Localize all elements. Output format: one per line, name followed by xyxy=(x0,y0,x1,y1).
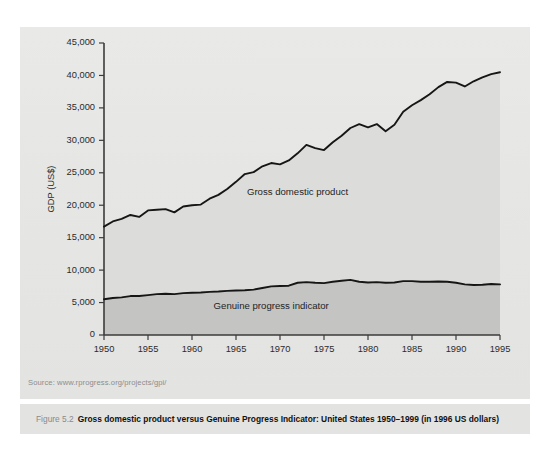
svg-text:1985: 1985 xyxy=(402,344,423,354)
svg-text:10,000: 10,000 xyxy=(67,265,95,275)
svg-text:1980: 1980 xyxy=(358,344,379,354)
svg-text:0: 0 xyxy=(90,329,95,339)
svg-text:35,000: 35,000 xyxy=(67,102,95,112)
svg-text:1995: 1995 xyxy=(490,344,511,354)
figure-container: 05,00010,00015,00020,00025,00030,00035,0… xyxy=(0,0,549,451)
figure-number: Figure 5.2 xyxy=(36,414,74,424)
svg-text:45,000: 45,000 xyxy=(67,37,95,47)
svg-text:1965: 1965 xyxy=(226,344,247,354)
chart-panel: 05,00010,00015,00020,00025,00030,00035,0… xyxy=(20,27,530,399)
svg-text:1955: 1955 xyxy=(138,344,159,354)
svg-text:Genuine progress indicator: Genuine progress indicator xyxy=(214,300,330,311)
svg-text:5,000: 5,000 xyxy=(72,297,95,307)
svg-text:1970: 1970 xyxy=(270,344,291,354)
figure-caption-bar: Figure 5.2Gross domestic product versus … xyxy=(20,404,530,434)
svg-text:25,000: 25,000 xyxy=(67,167,95,177)
svg-text:20,000: 20,000 xyxy=(67,200,95,210)
svg-text:40,000: 40,000 xyxy=(67,70,95,80)
svg-text:Gross domestic product: Gross domestic product xyxy=(247,186,349,197)
figure-caption: Figure 5.2Gross domestic product versus … xyxy=(20,414,499,424)
svg-text:1950: 1950 xyxy=(94,344,115,354)
source-note: Source: www.rprogress.org/projects/gpi/ xyxy=(28,378,167,387)
svg-text:1960: 1960 xyxy=(182,344,203,354)
figure-caption-title: Gross domestic product versus Genuine Pr… xyxy=(78,414,499,424)
svg-text:GDP (US$): GDP (US$) xyxy=(46,166,56,213)
svg-text:30,000: 30,000 xyxy=(67,135,95,145)
chart-plot: 05,00010,00015,00020,00025,00030,00035,0… xyxy=(20,27,530,399)
svg-text:15,000: 15,000 xyxy=(67,232,95,242)
svg-text:1975: 1975 xyxy=(314,344,335,354)
svg-text:1990: 1990 xyxy=(446,344,467,354)
